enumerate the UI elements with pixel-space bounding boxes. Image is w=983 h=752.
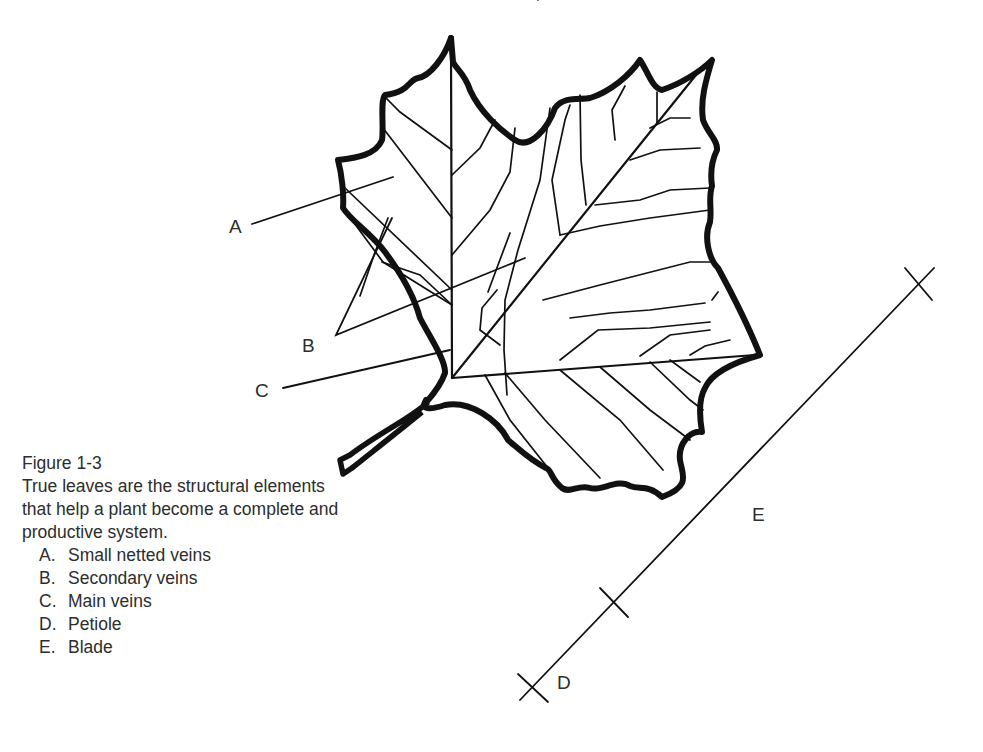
figure-caption: Figure 1-3 True leaves are the structura… bbox=[22, 452, 342, 659]
legend-item: E.Blade bbox=[39, 636, 342, 659]
legend-text: Petiole bbox=[68, 613, 122, 636]
legend-letter: C. bbox=[39, 590, 68, 613]
secondary-veins bbox=[343, 0, 730, 478]
label-e: E bbox=[752, 505, 765, 524]
label-b: B bbox=[302, 336, 315, 355]
legend-text: Blade bbox=[68, 636, 113, 659]
legend-letter: E. bbox=[39, 636, 68, 659]
figure-description: True leaves are the structural elements … bbox=[22, 475, 342, 544]
legend-item: A.Small netted veins bbox=[39, 544, 342, 567]
label-c: C bbox=[255, 381, 269, 400]
leader-lines bbox=[252, 177, 525, 388]
label-d: D bbox=[557, 673, 571, 692]
legend-text: Secondary veins bbox=[68, 567, 197, 590]
leaf-outline bbox=[424, 38, 760, 497]
leaf-outline-left bbox=[338, 38, 451, 405]
leader-a bbox=[252, 177, 393, 224]
legend-letter: A. bbox=[39, 544, 68, 567]
legend-item: C.Main veins bbox=[39, 590, 342, 613]
legend-item: D.Petiole bbox=[39, 613, 342, 636]
legend-text: Main veins bbox=[68, 590, 152, 613]
figure-title: Figure 1-3 bbox=[22, 452, 342, 475]
legend-letter: D. bbox=[39, 613, 68, 636]
petiole bbox=[340, 402, 428, 474]
legend-text: Small netted veins bbox=[68, 544, 211, 567]
label-a: A bbox=[229, 217, 242, 236]
legend-letter: B. bbox=[39, 567, 68, 590]
legend-item: B.Secondary veins bbox=[39, 567, 342, 590]
legend-list: A.Small netted veins B.Secondary veins C… bbox=[22, 544, 342, 659]
